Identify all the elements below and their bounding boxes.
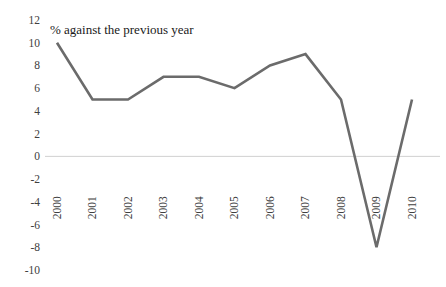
y-axis-tick-label: -6	[30, 219, 40, 231]
y-axis-tick-label: 6	[34, 82, 40, 94]
x-axis-tick-label: 2006	[264, 196, 276, 219]
y-axis-tick-label: 0	[34, 150, 40, 162]
x-axis-tick-label: 2009	[371, 196, 383, 219]
y-axis-tick-label: -4	[30, 196, 40, 208]
x-axis-tick-label: 2002	[122, 196, 134, 219]
x-axis-tick-label: 2001	[87, 196, 99, 219]
x-axis-tick-label: 2005	[229, 196, 241, 219]
x-axis-tick-label: 2003	[158, 196, 170, 219]
line-chart: 121086420-2-4-6-8-10 2000200120022003200…	[0, 0, 446, 287]
y-axis-tick-label: 10	[29, 37, 41, 49]
x-axis-tick-label: 2008	[335, 196, 347, 219]
x-axis-tick-label: 2007	[300, 196, 312, 219]
y-axis-tick-label: -8	[30, 241, 40, 253]
chart-background	[0, 0, 446, 287]
y-axis-tick-label: -10	[25, 264, 41, 276]
y-axis-tick-label: -2	[30, 173, 40, 185]
y-axis-tick-label: 4	[34, 105, 40, 117]
y-axis-tick-label: 12	[29, 14, 41, 26]
x-axis-tick-label: 2010	[406, 196, 418, 219]
x-axis-tick-label: 2000	[51, 196, 63, 219]
y-axis-tick-label: 2	[34, 128, 40, 140]
y-axis-tick-label: 8	[34, 59, 40, 71]
chart-canvas: 121086420-2-4-6-8-10 2000200120022003200…	[0, 0, 446, 287]
chart-title: % against the previous year	[50, 22, 194, 37]
x-axis-tick-label: 2004	[193, 196, 205, 219]
